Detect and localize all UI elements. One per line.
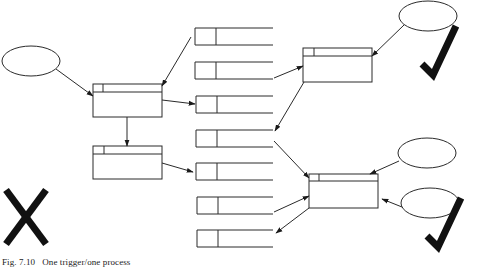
store-1-datastore: [195, 28, 273, 45]
process-a-box: [93, 84, 162, 117]
store-4-to-process-d-arrow: [274, 141, 309, 178]
store-7-datastore: [197, 230, 273, 247]
store-3-datastore: [196, 96, 273, 113]
process-d-to-store-7-arrow: [276, 208, 309, 233]
store-5-datastore: [196, 163, 273, 180]
store-1-to-process-a-arrow: [162, 37, 191, 86]
process-c-box: [303, 48, 372, 82]
store-6-to-process-d-arrow: [274, 196, 309, 212]
trigger-top-right-to-process-c-arrow: [372, 25, 404, 56]
store-3-to-process-c-arrow: [274, 66, 303, 78]
process-d-box: [309, 174, 378, 208]
process-c-to-store-4-arrow: [275, 82, 304, 131]
cross-mark-icon: [6, 190, 46, 244]
store-2-datastore: [195, 62, 273, 79]
trigger-right-upper-to-process-d-arrow: [370, 161, 399, 174]
process-b-box: [93, 146, 162, 179]
trigger-top-right-ellipse: [399, 1, 457, 31]
trigger-ellipses: [2, 1, 459, 218]
figure-caption: Fig. 7.10 One trigger/one process: [2, 257, 130, 267]
data-stores: [195, 28, 273, 247]
process-a-to-store-3-arrow: [162, 100, 195, 104]
trigger-left-ellipse: [2, 46, 60, 76]
process-b-to-store-5-arrow: [162, 163, 193, 172]
store-4-datastore: [196, 130, 273, 147]
trigger-right-upper-ellipse: [398, 138, 456, 168]
trigger-right-lower-to-process-d-arrow: [382, 199, 402, 207]
process-boxes: [93, 48, 378, 208]
check-mark-icon: [422, 26, 456, 75]
store-6-datastore: [197, 197, 273, 214]
trigger-left-to-process-a-arrow: [56, 69, 93, 96]
check-mark-icon: [427, 198, 461, 247]
diagram-canvas: [0, 0, 490, 270]
